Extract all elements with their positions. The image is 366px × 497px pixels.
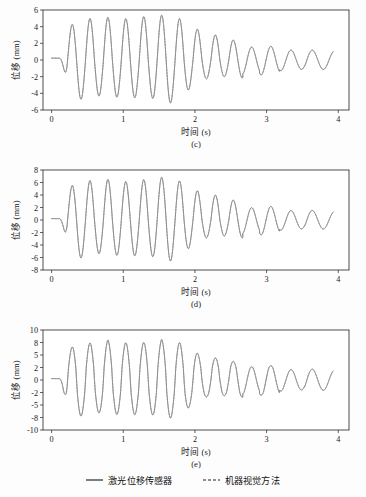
x-axis-label: 时间 (s) xyxy=(181,126,210,137)
x-axis-tick-label: 0 xyxy=(50,435,54,444)
x-axis-tick-label: 4 xyxy=(336,435,340,444)
y-axis-tick-label: 2 xyxy=(34,204,38,213)
solid-line-icon xyxy=(86,479,103,481)
y-axis-tick-label: 8 xyxy=(34,166,38,175)
y-axis-tick-label: -2 xyxy=(31,389,38,398)
legend-entry-laser: 激光位移传感器 xyxy=(86,473,172,487)
y-axis-tick-label: 6 xyxy=(34,179,38,188)
figure-legend: 激光位移传感器 机器视觉方法 xyxy=(0,466,366,494)
y-axis-tick-label: -4 xyxy=(31,89,38,98)
panel-c: 01234-6-4-20246位移 (mm)时间 (s)(c) xyxy=(0,0,366,160)
y-axis-tick-label: 5 xyxy=(34,351,38,360)
x-axis-tick-label: 3 xyxy=(265,115,269,124)
plot-frame xyxy=(43,10,349,110)
y-axis-tick-label: 6 xyxy=(34,6,38,15)
x-axis-label: 时间 (s) xyxy=(181,446,210,457)
y-axis-tick-label: -5 xyxy=(31,401,38,410)
y-axis-tick-label: -2 xyxy=(31,73,38,82)
panel-label: (d) xyxy=(191,299,201,309)
y-axis-label: 位移 (mm) xyxy=(10,360,21,399)
x-axis-tick-label: 2 xyxy=(193,435,197,444)
y-axis-tick-label: 8 xyxy=(34,339,38,348)
y-axis-tick-label: 4 xyxy=(34,191,38,200)
x-axis-tick-label: 1 xyxy=(121,115,125,124)
x-axis-tick-label: 3 xyxy=(265,435,269,444)
plot-canvas: 01234-8-6-4-202468位移 (mm)时间 (s)(d) xyxy=(0,160,366,320)
y-axis-tick-label: 10 xyxy=(30,326,38,335)
y-axis-tick-label: 2 xyxy=(34,364,38,373)
x-axis-tick-label: 4 xyxy=(336,115,340,124)
dashed-line-icon xyxy=(203,479,220,481)
plot-canvas: 01234-10-8-5-2025810位移 (mm)时间 (s)(e) xyxy=(0,320,366,480)
y-axis-label: 位移 (mm) xyxy=(10,200,21,239)
panel-e: 01234-10-8-5-2025810位移 (mm)时间 (s)(e) xyxy=(0,320,366,480)
x-axis-tick-label: 1 xyxy=(121,435,125,444)
y-axis-tick-label: -8 xyxy=(31,266,38,275)
x-axis-tick-label: 2 xyxy=(193,115,197,124)
x-axis-tick-label: 4 xyxy=(336,275,340,284)
y-axis-tick-label: -6 xyxy=(31,254,38,263)
y-axis-tick-label: -10 xyxy=(27,426,38,435)
x-axis-tick-label: 0 xyxy=(50,275,54,284)
panel-label: (c) xyxy=(191,139,201,149)
x-axis-label: 时间 (s) xyxy=(181,286,210,297)
y-axis-tick-label: 4 xyxy=(34,23,38,32)
legend-entry-vision: 机器视觉方法 xyxy=(203,473,280,487)
panel-d: 01234-8-6-4-202468位移 (mm)时间 (s)(d) xyxy=(0,160,366,320)
y-axis-label: 位移 (mm) xyxy=(10,40,21,79)
y-axis-tick-label: -8 xyxy=(31,414,38,423)
x-axis-tick-label: 0 xyxy=(50,115,54,124)
y-axis-tick-label: 0 xyxy=(34,376,38,385)
y-axis-tick-label: 0 xyxy=(34,216,38,225)
figure-root: 01234-6-4-20246位移 (mm)时间 (s)(c) 01234-8-… xyxy=(0,0,366,497)
y-axis-tick-label: 0 xyxy=(34,56,38,65)
x-axis-tick-label: 2 xyxy=(193,275,197,284)
y-axis-tick-label: -4 xyxy=(31,241,38,250)
x-axis-tick-label: 3 xyxy=(265,275,269,284)
legend-label-vision: 机器视觉方法 xyxy=(225,473,280,487)
legend-label-laser: 激光位移传感器 xyxy=(108,473,172,487)
y-axis-tick-label: 2 xyxy=(34,39,38,48)
y-axis-tick-label: -6 xyxy=(31,106,38,115)
plot-canvas: 01234-6-4-20246位移 (mm)时间 (s)(c) xyxy=(0,0,366,160)
x-axis-tick-label: 1 xyxy=(121,275,125,284)
y-axis-tick-label: -2 xyxy=(31,229,38,238)
